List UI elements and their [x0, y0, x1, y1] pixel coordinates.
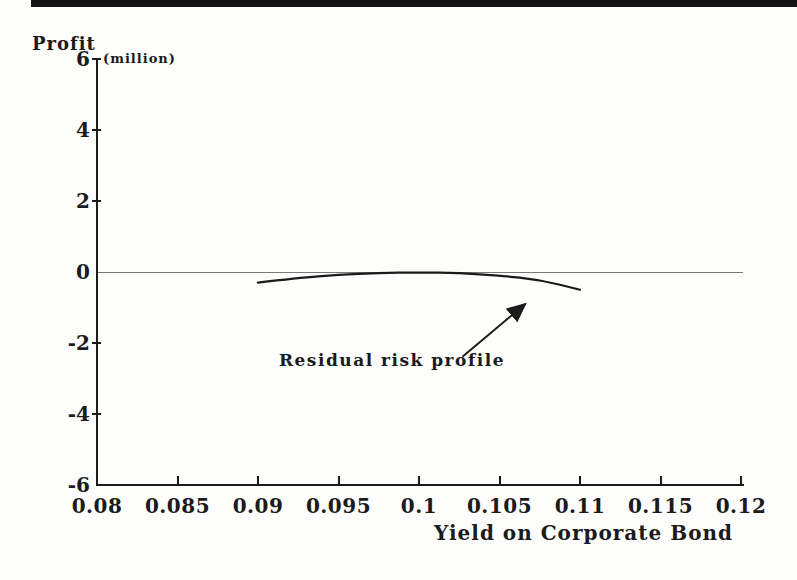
- plot-overlay: [0, 0, 797, 580]
- annotation-arrow: [462, 304, 525, 357]
- curve-annotation-label: Residual risk profile: [279, 350, 505, 370]
- scanned-chart-figure: Profit (million) 6420-2-4-6 0.080.0850.0…: [0, 0, 797, 580]
- residual-risk-curve: [258, 273, 580, 290]
- x-axis-title: Yield on Corporate Bond: [434, 521, 733, 545]
